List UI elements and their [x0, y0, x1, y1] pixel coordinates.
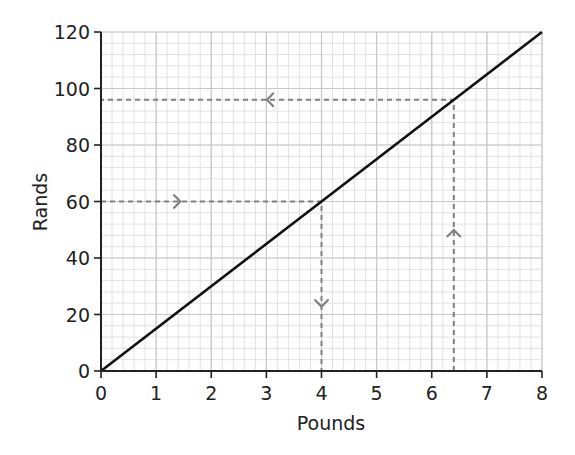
y-tick-label: 40: [66, 247, 90, 269]
conversion-chart: 012345678 020406080100120 Pounds Rands: [0, 0, 575, 455]
x-axis-title: Pounds: [297, 412, 365, 434]
y-axis-title: Rands: [29, 173, 51, 231]
x-tick-label: 1: [150, 382, 162, 404]
x-tick-labels: 012345678: [95, 382, 548, 404]
x-tick-label: 0: [95, 382, 107, 404]
x-tick-label: 7: [481, 382, 493, 404]
y-tick-label: 120: [54, 21, 90, 43]
y-tick-label: 0: [78, 360, 90, 382]
x-tick-label: 4: [315, 382, 327, 404]
x-tick-label: 6: [426, 382, 438, 404]
y-tick-label: 60: [66, 191, 90, 213]
y-tick-label: 80: [66, 134, 90, 156]
x-tick-label: 3: [260, 382, 272, 404]
x-tick-label: 8: [536, 382, 548, 404]
y-tick-label: 20: [66, 304, 90, 326]
x-tick-label: 2: [205, 382, 217, 404]
y-tick-label: 100: [54, 78, 90, 100]
x-tick-label: 5: [371, 382, 383, 404]
y-tick-labels: 020406080100120: [54, 21, 90, 382]
